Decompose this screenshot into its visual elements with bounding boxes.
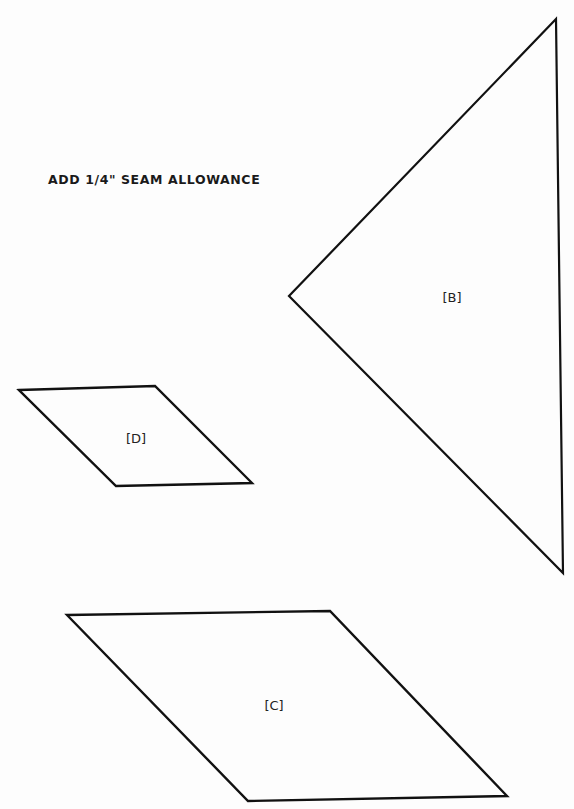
pattern-page: ADD 1/4" SEAM ALLOWANCE [B] [D] [C] <box>0 0 574 809</box>
pattern-piece-b-triangle <box>289 19 563 573</box>
piece-d-label: [D] <box>126 431 146 446</box>
piece-b-label: [B] <box>442 290 461 305</box>
pattern-shapes <box>0 0 574 809</box>
pattern-piece-c-parallelogram <box>67 611 507 801</box>
piece-c-label: [C] <box>264 698 283 713</box>
